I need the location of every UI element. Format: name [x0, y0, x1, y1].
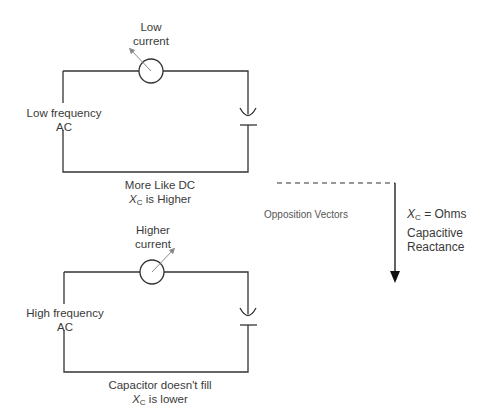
opposition-vectors-label: Opposition Vectors	[264, 208, 348, 222]
bottom-caption: Capacitor doesn't fill XC is lower	[90, 378, 230, 410]
top-wire-top-right	[163, 71, 248, 114]
bottom-caption-xc: XC is lower	[90, 392, 230, 410]
bottom-source-label: High frequency AC	[16, 306, 114, 334]
bottom-wire-top-right	[164, 272, 248, 314]
xc-equation: XC = Ohms	[407, 207, 466, 226]
top-caption: More Like DC XC is Higher	[100, 178, 220, 210]
top-needle-icon	[131, 50, 151, 71]
bottom-meter-label: Higher current	[126, 223, 180, 251]
top-caption-xc: XC is Higher	[100, 192, 220, 210]
top-source-label: Low frequency AC	[16, 106, 112, 134]
arrow-down-icon	[390, 271, 400, 283]
top-meter-label: Low current	[126, 20, 176, 48]
xc-definition: XC = Ohms Capacitive Reactance	[407, 207, 466, 255]
opposition-vector	[277, 183, 400, 283]
